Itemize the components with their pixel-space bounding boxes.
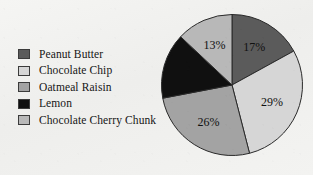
- pie-chart: 17%29%26%15%13%: [160, 13, 304, 157]
- pie-slice-value-label: 15%: [179, 66, 201, 80]
- legend-swatch-lemon: [18, 99, 30, 109]
- legend-swatch-chocolate-chip: [18, 66, 30, 76]
- pie-slice-value-label: 17%: [243, 40, 265, 54]
- legend-item-peanut-butter: Peanut Butter: [18, 46, 178, 63]
- legend-swatch-peanut-butter: [18, 49, 30, 59]
- legend-label-chocolate-chip: Chocolate Chip: [39, 65, 112, 77]
- chart-page: Peanut Butter Chocolate Chip Oatmeal Rai…: [0, 0, 313, 175]
- legend-label-peanut-butter: Peanut Butter: [39, 49, 103, 61]
- legend-swatch-oatmeal-raisin: [18, 82, 30, 92]
- pie-slice-value-label: 26%: [198, 115, 220, 129]
- pie-slice-group: [162, 15, 303, 156]
- legend-item-chocolate-cherry-chunk: Chocolate Cherry Chunk: [18, 112, 178, 129]
- legend-item-lemon: Lemon: [18, 96, 178, 113]
- legend-label-oatmeal-raisin: Oatmeal Raisin: [39, 82, 112, 94]
- pie-chart-svg: 17%29%26%15%13%: [160, 13, 304, 157]
- pie-slice-value-label: 29%: [261, 95, 283, 109]
- pie-slice-value-label: 13%: [204, 38, 226, 52]
- chart-legend: Peanut Butter Chocolate Chip Oatmeal Rai…: [18, 46, 178, 129]
- legend-swatch-chocolate-cherry-chunk: [18, 115, 30, 125]
- legend-label-chocolate-cherry-chunk: Chocolate Cherry Chunk: [39, 115, 156, 127]
- legend-item-chocolate-chip: Chocolate Chip: [18, 63, 178, 80]
- legend-item-oatmeal-raisin: Oatmeal Raisin: [18, 79, 178, 96]
- legend-label-lemon: Lemon: [39, 98, 72, 110]
